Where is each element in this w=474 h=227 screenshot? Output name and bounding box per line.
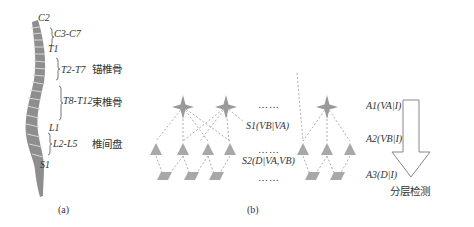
group-bundle-vertebra: 束椎骨 (92, 94, 122, 109)
layer-a2: A2(VB|I) (366, 133, 402, 144)
disc-parallelograms (157, 172, 345, 180)
layer-a1: A1(VA|I) (366, 100, 401, 111)
spine-illustration (26, 20, 46, 197)
ellipsis-row2: …… (258, 144, 280, 155)
relation-s2: S2(D|VA,VB) (242, 155, 295, 166)
ellipsis-row1: …… (258, 99, 280, 110)
label-t2-t7: T2-T7 (61, 64, 85, 75)
vertebra-bundle-triangles (150, 143, 356, 155)
label-c2: C2 (38, 12, 50, 23)
label-l1: L1 (49, 122, 60, 133)
label-s1: S1 (40, 159, 50, 170)
caption-b: (b) (247, 204, 259, 215)
label-c3-c7: C3-C7 (54, 28, 81, 39)
ellipsis-row3: …… (258, 172, 280, 183)
group-intervertebral-disc: 椎间盘 (92, 136, 122, 151)
caption-a: (a) (58, 204, 69, 215)
vertebra-anchor-stars (172, 95, 338, 119)
label-l2-l5: L2-L5 (53, 138, 77, 149)
hierarchical-detection-label: 分层检测 (390, 183, 430, 198)
relation-s1: S1(VB|VA) (246, 120, 289, 131)
group-anchor-vertebra: 锚椎骨 (92, 61, 122, 76)
label-t1: T1 (48, 43, 59, 54)
layer-a3: A3(D|I) (366, 169, 397, 180)
label-t8-t12: T8-T12 (63, 95, 92, 106)
